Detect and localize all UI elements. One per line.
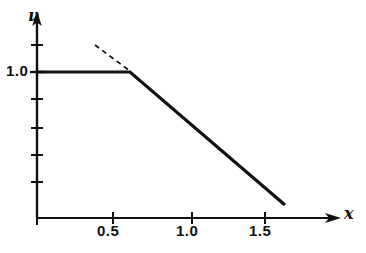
data-line-main (37, 72, 285, 205)
plot-svg (0, 0, 366, 253)
x-axis-title: x (344, 206, 354, 222)
x-tick-label-1-0: 1.0 (176, 223, 198, 238)
data-line-dashed-extrapolation (95, 45, 130, 71)
x-tick-label-0-5: 0.5 (97, 223, 119, 238)
y-axis-title: ν (28, 8, 39, 24)
y-tick-label-1-0: 1.0 (6, 63, 28, 78)
x-tick-label-1-5: 1.5 (249, 223, 271, 238)
figure-canvas: ν 1.0 0.5 1.0 1.5 x (0, 0, 366, 253)
